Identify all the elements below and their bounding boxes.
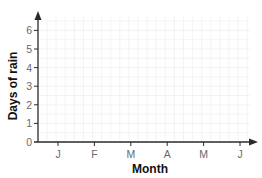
- chart: 0123456 JFMAMJ Month Days of rain: [0, 0, 262, 178]
- y-tick-label: 2: [26, 99, 32, 111]
- x-tick-label: M: [199, 148, 208, 160]
- axes: [34, 11, 258, 146]
- y-axis-title: Days of rain: [6, 52, 20, 121]
- y-tick-label: 0: [26, 136, 32, 148]
- y-tick-label: 3: [26, 80, 32, 92]
- x-tick-label: J: [237, 148, 242, 160]
- y-tick-label: 6: [26, 24, 32, 36]
- y-tick-label: 4: [26, 62, 32, 74]
- y-axis-arrow-icon: [35, 11, 42, 20]
- x-tick-label: F: [91, 148, 97, 160]
- y-tick-label: 1: [26, 117, 32, 129]
- x-axis-arrow-icon: [249, 139, 258, 146]
- y-axis-ticks: 0123456: [26, 24, 38, 148]
- grid-lines: [38, 17, 250, 142]
- x-axis-title: Month: [132, 162, 168, 176]
- x-tick-label: M: [126, 148, 135, 160]
- y-tick-label: 5: [26, 43, 32, 55]
- x-tick-label: A: [164, 148, 171, 160]
- x-tick-label: J: [55, 148, 60, 160]
- x-axis-ticks: JFMAMJ: [55, 142, 242, 160]
